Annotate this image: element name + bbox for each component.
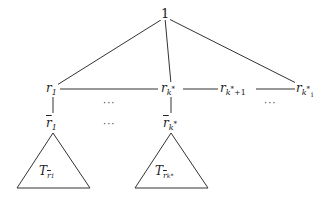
node-rbark: rk*: [162, 117, 178, 132]
subtree-label-k: Trk*: [155, 164, 173, 180]
node-rk-sub: k*: [167, 88, 175, 97]
node-rk: rk*: [160, 82, 176, 97]
node-rk-i: rk*: [295, 82, 311, 97]
node-rki-sup: *: [307, 85, 311, 93]
ellipsis-row1-left: ···: [103, 97, 116, 108]
node-rk-plus-1: rk*+1: [219, 82, 247, 97]
ellipsis-row1-right: ···: [264, 97, 277, 108]
edge-root-rki: [167, 18, 302, 86]
node-rki-subsub: i: [311, 92, 313, 99]
node-rki-sub: k*: [302, 88, 310, 97]
node-rbark-sup: *: [174, 120, 178, 128]
node-rbar1-sub: 1: [52, 123, 57, 132]
node-rbark-sub: k*: [169, 123, 177, 132]
node-rk1-tail: +1: [234, 88, 246, 97]
edge-root-r1: [57, 18, 164, 85]
edge-root-rk: [165, 18, 171, 84]
subtree-1-sub: r1: [47, 171, 55, 180]
subtree-k-sub: rk*: [163, 171, 173, 180]
root-node: 1: [160, 7, 170, 20]
node-rk-sup: *: [172, 85, 176, 93]
node-rk1-sub: k*+1: [226, 88, 246, 97]
subtree-k-base: T: [155, 164, 163, 178]
node-r1-sub: 1: [52, 88, 57, 97]
node-r1: r1: [45, 82, 58, 97]
subtree-label-1: Tr1: [39, 164, 55, 180]
node-rbar1: r1: [45, 117, 58, 132]
subtree-1-base: T: [39, 164, 47, 178]
ellipsis-row2-left: ···: [103, 118, 116, 129]
